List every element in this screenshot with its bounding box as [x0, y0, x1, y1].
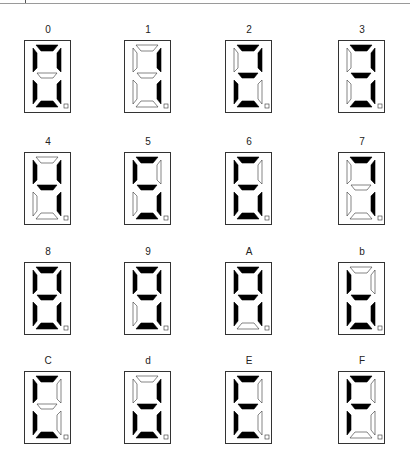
decimal-point-icon — [64, 216, 68, 220]
seven-segment-display — [225, 152, 272, 225]
digit-cell: 5 — [124, 136, 172, 236]
digit-cell: 1 — [124, 24, 172, 124]
digit-label: 8 — [24, 246, 72, 258]
decimal-point-icon — [265, 435, 269, 439]
decimal-point-icon — [265, 326, 269, 330]
decimal-point-icon — [164, 435, 168, 439]
seven-segment-display — [24, 262, 71, 335]
seven-segment-display — [225, 262, 272, 335]
decimal-point-icon — [378, 104, 382, 108]
seven-segment-display — [124, 40, 171, 113]
digit-label: 6 — [225, 136, 273, 148]
digit-cell: 0 — [24, 24, 72, 124]
digit-label: d — [124, 355, 172, 367]
digit-label: E — [225, 355, 273, 367]
digit-label: 5 — [124, 136, 172, 148]
top-rule — [0, 3, 410, 4]
decimal-point-icon — [265, 216, 269, 220]
seven-segment-display — [338, 262, 385, 335]
decimal-point-icon — [64, 326, 68, 330]
seven-segment-display — [124, 371, 171, 444]
digit-cell: b — [338, 246, 386, 346]
digit-label: A — [225, 246, 273, 258]
seven-segment-display — [338, 152, 385, 225]
digit-cell: C — [24, 355, 72, 455]
seven-segment-display — [24, 40, 71, 113]
digit-label: 9 — [124, 246, 172, 258]
digit-cell: 9 — [124, 246, 172, 346]
decimal-point-icon — [164, 326, 168, 330]
seven-segment-display — [338, 371, 385, 444]
seven-segment-display — [124, 152, 171, 225]
digit-cell: 8 — [24, 246, 72, 346]
digit-cell: A — [225, 246, 273, 346]
seven-segment-display — [24, 152, 71, 225]
digit-label: 1 — [124, 24, 172, 36]
top-tick-mark — [25, 0, 26, 3]
digit-label: C — [24, 355, 72, 367]
decimal-point-icon — [378, 216, 382, 220]
decimal-point-icon — [164, 216, 168, 220]
digit-cell: 2 — [225, 24, 273, 124]
digit-label: 0 — [24, 24, 72, 36]
decimal-point-icon — [378, 326, 382, 330]
digit-label: 7 — [338, 136, 386, 148]
digit-label: b — [338, 246, 386, 258]
digit-label: 3 — [338, 24, 386, 36]
digit-cell: 6 — [225, 136, 273, 236]
decimal-point-icon — [64, 104, 68, 108]
decimal-point-icon — [265, 104, 269, 108]
seven-segment-display — [24, 371, 71, 444]
decimal-point-icon — [64, 435, 68, 439]
seven-segment-display — [225, 371, 272, 444]
digit-label: F — [338, 355, 386, 367]
digit-cell: E — [225, 355, 273, 455]
digit-cell: F — [338, 355, 386, 455]
seven-segment-display — [225, 40, 272, 113]
digit-label: 2 — [225, 24, 273, 36]
decimal-point-icon — [378, 435, 382, 439]
decimal-point-icon — [164, 104, 168, 108]
seven-segment-display — [124, 262, 171, 335]
digit-cell: 4 — [24, 136, 72, 236]
digit-cell: 7 — [338, 136, 386, 236]
digit-cell: 3 — [338, 24, 386, 124]
digit-cell: d — [124, 355, 172, 455]
seven-segment-display — [338, 40, 385, 113]
digit-label: 4 — [24, 136, 72, 148]
